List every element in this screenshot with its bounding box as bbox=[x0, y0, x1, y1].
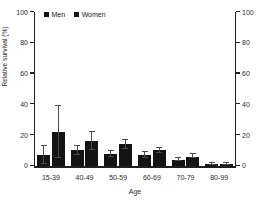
error-bar-cap-lower bbox=[156, 152, 162, 153]
y-tick-label-left: 20 bbox=[20, 132, 28, 139]
error-bar-cap-upper bbox=[223, 162, 229, 163]
y-tick-right bbox=[236, 103, 240, 104]
x-category-label: 60-69 bbox=[135, 174, 169, 181]
error-bar-cap-lower bbox=[41, 163, 47, 164]
bar-group bbox=[138, 12, 166, 166]
y-tick-label-right: 60 bbox=[242, 70, 250, 77]
y-tick-right bbox=[236, 134, 240, 135]
y-tick-label-left: 80 bbox=[20, 39, 28, 46]
error-bar-line bbox=[91, 132, 92, 150]
chart-figure: Men Women 020406080100 020406080100 Rela… bbox=[0, 0, 270, 203]
x-axis-line bbox=[34, 166, 236, 168]
x-category-label: 80-99 bbox=[202, 174, 236, 181]
y-tick-left bbox=[30, 165, 34, 166]
y-axis-title-text: Relative survival (%) bbox=[0, 11, 9, 103]
error-bar-cap-upper bbox=[74, 145, 80, 146]
y-tick-label-right: 20 bbox=[242, 132, 250, 139]
bar-group bbox=[104, 12, 132, 166]
error-bar-cap-lower bbox=[108, 156, 114, 157]
error-bar-cap-upper bbox=[55, 105, 61, 106]
x-category-label: 40-49 bbox=[68, 174, 102, 181]
y-tick-label-right: 40 bbox=[242, 101, 250, 108]
y-tick-left bbox=[30, 134, 34, 135]
y-tick-label-left: 60 bbox=[20, 70, 28, 77]
error-bar-cap-upper bbox=[209, 162, 215, 163]
error-bar-line bbox=[43, 146, 44, 164]
error-bar-cap-lower bbox=[223, 164, 229, 165]
chart-title bbox=[0, 0, 270, 4]
bar-group bbox=[71, 12, 99, 166]
error-bar-cap-lower bbox=[209, 164, 215, 165]
error-bar-cap-upper bbox=[108, 150, 114, 151]
y-tick-left bbox=[30, 42, 34, 43]
bar-group bbox=[205, 12, 233, 166]
error-bar-cap-lower bbox=[55, 157, 61, 158]
error-bar-cap-upper bbox=[122, 139, 128, 140]
y-tick-right bbox=[236, 11, 240, 12]
y-tick-right bbox=[236, 42, 240, 43]
error-bar-cap-upper bbox=[142, 151, 148, 152]
x-category-label: 15-39 bbox=[34, 174, 68, 181]
x-axis-title: Age bbox=[34, 188, 236, 195]
y-axis-right-line bbox=[235, 12, 236, 168]
error-bar-cap-lower bbox=[89, 149, 95, 150]
y-tick-left bbox=[30, 72, 34, 73]
y-tick-left bbox=[30, 103, 34, 104]
error-bar-cap-lower bbox=[122, 148, 128, 149]
error-bar-cap-lower bbox=[74, 154, 80, 155]
error-bar-cap-upper bbox=[156, 147, 162, 148]
error-bar-cap-lower bbox=[142, 157, 148, 158]
y-tick-label-left: 40 bbox=[20, 101, 28, 108]
error-bar-cap-lower bbox=[190, 157, 196, 158]
x-category-label: 50-59 bbox=[101, 174, 135, 181]
plot-area: 020406080100 020406080100 bbox=[34, 12, 236, 168]
y-tick-right bbox=[236, 72, 240, 73]
error-bar-cap-lower bbox=[175, 160, 181, 161]
x-category-label: 70-79 bbox=[169, 174, 203, 181]
y-tick-label-right: 100 bbox=[242, 9, 254, 16]
y-tick-right bbox=[236, 165, 240, 166]
y-axis-left-line bbox=[34, 12, 35, 168]
error-bar-cap-upper bbox=[89, 131, 95, 132]
y-tick-label-left: 100 bbox=[16, 9, 28, 16]
y-tick-label-right: 0 bbox=[242, 162, 246, 169]
y-tick-label-right: 80 bbox=[242, 39, 250, 46]
error-bar-cap-upper bbox=[190, 153, 196, 154]
error-bar-cap-upper bbox=[41, 145, 47, 146]
bar-group bbox=[172, 12, 200, 166]
error-bar-line bbox=[58, 106, 59, 158]
y-tick-label-left: 0 bbox=[24, 162, 28, 169]
error-bar-cap-upper bbox=[175, 157, 181, 158]
y-axis-title: Relative survival (%) bbox=[0, 52, 9, 61]
bar-group bbox=[37, 12, 65, 166]
y-tick-left bbox=[30, 11, 34, 12]
